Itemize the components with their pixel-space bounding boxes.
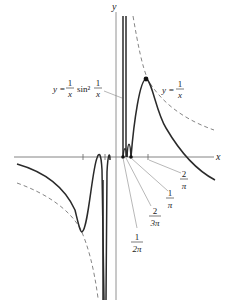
svg-text:2: 2 [153, 206, 158, 216]
svg-text:sin²: sin² [77, 84, 91, 94]
svg-text:1: 1 [135, 232, 140, 242]
svg-text:x: x [67, 89, 72, 99]
tick-label-1-over-2pi: 1 2π [131, 232, 143, 254]
svg-text:1: 1 [178, 79, 183, 89]
svg-text:2π: 2π [132, 244, 142, 254]
svg-text:3π: 3π [149, 218, 160, 228]
svg-text:1: 1 [96, 78, 101, 88]
svg-text:π: π [168, 200, 173, 210]
svg-text:x: x [177, 90, 182, 100]
main-curve-label: y = 1 x sin² 1 x [52, 78, 122, 99]
svg-text:y =: y = [52, 84, 65, 94]
tick-label-2-over-pi: 2 π [180, 169, 188, 191]
tick-label-1-over-pi: 1 π [166, 188, 174, 210]
tick-label-2-over-3pi: 2 3π [149, 206, 161, 228]
axes: x y [14, 1, 221, 300]
svg-text:y =: y = [161, 85, 174, 95]
svg-text:2: 2 [182, 169, 187, 179]
svg-text:1: 1 [168, 188, 173, 198]
y-axis-label: y [111, 1, 117, 12]
svg-text:π: π [182, 181, 187, 191]
function-graph: x y 1 2π [0, 0, 231, 307]
svg-text:1: 1 [68, 78, 73, 88]
svg-text:x: x [95, 89, 100, 99]
peak-marker [144, 77, 149, 82]
envelope-curve-label: y = 1 x [161, 79, 184, 100]
x-axis-label: x [215, 151, 221, 162]
